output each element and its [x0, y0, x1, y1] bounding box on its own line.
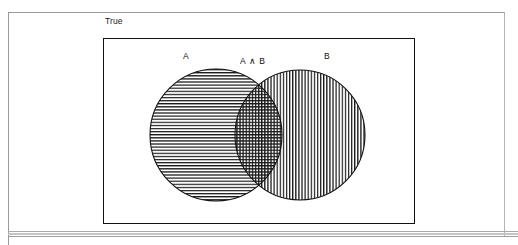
bottom-divider-line-1 — [8, 231, 518, 232]
bottom-divider-line-2 — [8, 233, 518, 235]
intersection-label: A ∧ B — [240, 56, 266, 66]
set-a-label: A — [183, 51, 189, 61]
universe-label: True — [105, 16, 123, 27]
bottom-divider-line-3 — [8, 236, 518, 237]
figure-canvas: True — [0, 0, 518, 245]
page-frame-left-tail — [8, 237, 9, 245]
set-b-label: B — [324, 51, 330, 61]
